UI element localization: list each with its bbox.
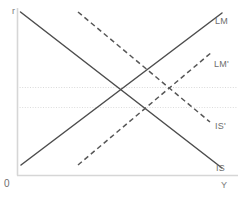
y-axis-label: r (12, 7, 15, 16)
curve-is-prime (78, 12, 210, 122)
origin-label: 0 (4, 179, 10, 189)
curve-label-is: IS (216, 164, 225, 173)
chart-plot-area (0, 0, 243, 203)
x-axis-label: Y (221, 181, 227, 190)
curve-label-is-prime: IS' (215, 122, 226, 131)
is-lm-chart: r Y 0 LM LM' IS' IS (0, 0, 243, 203)
curve-lm-prime (78, 52, 212, 165)
curve-label-lm: LM (215, 17, 228, 26)
curve-label-lm-prime: LM' (214, 60, 229, 69)
